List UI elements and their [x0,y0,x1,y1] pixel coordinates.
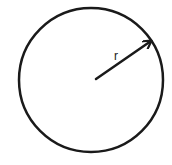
radius-label: r [114,49,118,63]
circle [19,8,163,152]
radius-arrow [96,41,151,79]
circle-radius-diagram: r [0,0,172,165]
